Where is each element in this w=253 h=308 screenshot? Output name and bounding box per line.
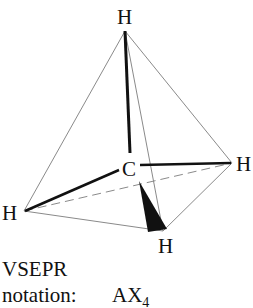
atom-label-right-h: H [236, 152, 251, 176]
caption-vsepr: VSEPR [2, 259, 67, 280]
notation-label: notation: [2, 283, 77, 307]
bond-c-right [140, 163, 231, 165]
notation-base: AX [112, 283, 142, 307]
bond-c-bottom-wedge [139, 181, 167, 232]
atom-label-top-h: H [117, 5, 132, 29]
atom-label-bottom-h: H [158, 234, 173, 258]
notation-value: AX4 [112, 285, 149, 308]
edge-top-right [125, 31, 232, 163]
bond-c-top [125, 31, 130, 153]
edge-left-bottom [24, 211, 163, 231]
bond-c-left [25, 170, 119, 211]
edge-right-bottom [163, 163, 232, 231]
atom-label-left-h: H [2, 201, 17, 225]
caption-notation: notation: AX4 [2, 285, 77, 306]
notation-subscript: 4 [142, 295, 149, 308]
bonds [25, 31, 231, 211]
edge-top-left [24, 31, 125, 211]
atom-label-center-c: C [122, 157, 136, 181]
